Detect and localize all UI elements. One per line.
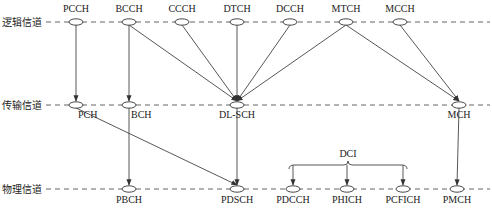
node-ellipse bbox=[69, 102, 83, 108]
node-ellipse bbox=[69, 19, 83, 25]
node-ellipse bbox=[230, 186, 244, 192]
dci-brace bbox=[289, 161, 407, 169]
edge-pch-to-pdsch bbox=[76, 108, 237, 185]
node-label: BCCH bbox=[115, 3, 142, 14]
node-ellipse bbox=[340, 186, 354, 192]
node-label: PDSCH bbox=[221, 194, 253, 205]
node-ellipse bbox=[175, 19, 189, 25]
channel-mapping-diagram: DCI PCCHBCCHCCCHDTCHDCCHMTCHMCCHPCHBCHDL… bbox=[0, 0, 492, 213]
edge-bcch-to-dl-sch bbox=[129, 25, 237, 101]
node-label: MCH bbox=[448, 109, 471, 120]
dci-label: DCI bbox=[339, 148, 356, 159]
node-ellipse bbox=[122, 102, 136, 108]
node-label: PHICH bbox=[332, 194, 362, 205]
node-ellipse bbox=[452, 102, 466, 108]
node-label: MTCH bbox=[332, 3, 361, 14]
node-ellipse bbox=[122, 19, 136, 25]
node-label: DL-SCH bbox=[219, 109, 255, 120]
edge-mcch-to-mch bbox=[400, 25, 459, 101]
node-ellipse bbox=[230, 102, 244, 108]
node-label: CCCH bbox=[168, 3, 195, 14]
node-label: PCH bbox=[78, 109, 97, 120]
node-pmch: PMCH bbox=[443, 186, 471, 205]
edge-dcch-to-dl-sch bbox=[237, 25, 290, 101]
edge-ccch-to-dl-sch bbox=[182, 25, 237, 101]
edge-mtch-to-dl-sch bbox=[237, 25, 346, 101]
node-label: PBCH bbox=[116, 194, 142, 205]
node-label: PCFICH bbox=[385, 194, 420, 205]
node-ellipse bbox=[393, 19, 407, 25]
node-ellipse bbox=[450, 186, 464, 192]
node-label: DCCH bbox=[276, 3, 304, 14]
layer-label-logical: 逻辑信道 bbox=[2, 16, 42, 28]
node-ellipse bbox=[283, 19, 297, 25]
edge-mtch-to-mch bbox=[346, 25, 459, 101]
layer-label-physical: 物理信道 bbox=[2, 183, 42, 195]
node-label: BCH bbox=[131, 109, 152, 120]
node-dl-sch: DL-SCH bbox=[219, 102, 255, 120]
node-label: MCCH bbox=[385, 3, 414, 14]
node-ellipse bbox=[396, 186, 410, 192]
node-label: PCCH bbox=[63, 3, 89, 14]
node-ellipse bbox=[122, 186, 136, 192]
node-label: PDCCH bbox=[276, 194, 309, 205]
node-ellipse bbox=[339, 19, 353, 25]
node-mch: MCH bbox=[448, 102, 471, 120]
node-bch: BCH bbox=[122, 102, 152, 120]
node-ellipse bbox=[286, 186, 300, 192]
node-label: DTCH bbox=[223, 3, 250, 14]
node-label: PMCH bbox=[443, 194, 471, 205]
layer-label-transport: 传输信道 bbox=[2, 99, 42, 111]
node-ellipse bbox=[230, 19, 244, 25]
node-pch: PCH bbox=[69, 102, 97, 120]
